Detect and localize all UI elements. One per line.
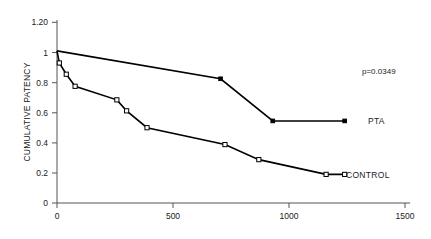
series-label-pta: PTA	[368, 116, 385, 126]
y-tick-label-0.2: 0.2	[36, 168, 48, 178]
pta-markers	[219, 77, 347, 123]
data-point-marker	[64, 72, 68, 76]
data-point-marker	[57, 61, 61, 65]
data-point-marker	[115, 98, 119, 102]
y-axis-title: CUMULATIVE PATENCY	[22, 62, 32, 161]
x-tick-label-0: 0	[55, 211, 60, 221]
x-tick-label-500: 500	[166, 211, 180, 221]
x-tick-label-1500: 1500	[396, 211, 415, 221]
y-tick-label-0.4: 0.4	[36, 138, 48, 148]
control-markers	[57, 61, 347, 177]
cumulative-patency-chart: 1.20 1 0.8 0.6 0.4 0.2 0 0 500 1000 1500…	[0, 0, 431, 239]
y-tick-label-0.8: 0.8	[36, 78, 48, 88]
control-curve	[57, 51, 345, 174]
data-point-marker	[257, 158, 261, 162]
y-tick-label-1: 1	[43, 48, 48, 58]
data-point-marker	[145, 126, 149, 130]
y-tick-label-1.20: 1.20	[31, 17, 48, 27]
p-value-annotation: p=0.0349	[362, 67, 396, 76]
data-point-marker	[73, 84, 77, 88]
series-label-control: CONTROL	[346, 170, 390, 180]
series-group	[57, 51, 347, 177]
data-point-marker	[324, 172, 328, 176]
data-point-marker	[271, 119, 275, 123]
y-tick-label-0: 0	[43, 198, 48, 208]
chart-svg: 1.20 1 0.8 0.6 0.4 0.2 0 0 500 1000 1500…	[0, 0, 431, 239]
data-point-marker	[125, 109, 129, 113]
pta-curve	[57, 51, 345, 121]
x-tick-label-1000: 1000	[280, 211, 299, 221]
data-point-marker	[223, 142, 227, 146]
data-point-marker	[343, 119, 347, 123]
data-point-marker	[219, 77, 223, 81]
y-tick-label-0.6: 0.6	[36, 108, 48, 118]
